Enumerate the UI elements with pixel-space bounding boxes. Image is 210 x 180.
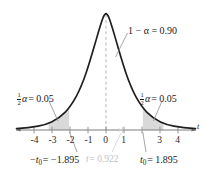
one-half-fraction-left: 12 [17, 92, 21, 107]
tick-label-4: 4 [175, 136, 180, 146]
tick-label-1: 1 [121, 136, 126, 146]
left-tail-area-label: 12α = 0.05 [17, 92, 54, 107]
tick-label-neg3: -3 [49, 136, 57, 146]
lower-critical-value-label: −t0 = −1.895 [30, 155, 79, 168]
t-axis-label: t [197, 122, 199, 131]
right-tail-area-label: 12α = 0.05 [140, 92, 177, 107]
t-distribution-figure: 1 − α = 0.90 12α = 0.05 12α = 0.05 -4 -3… [0, 0, 210, 180]
tick-label-neg2: -2 [67, 136, 75, 146]
test-statistic-leader-line [112, 133, 121, 152]
tick-label-0: 0 [103, 136, 108, 146]
upper-critical-value-label: t0 = 1.895 [140, 155, 178, 168]
distribution-plot [0, 0, 210, 180]
tick-label-3: 3 [157, 136, 162, 146]
confidence-region-label: 1 − α = 0.90 [128, 26, 177, 36]
one-half-fraction-right: 12 [140, 92, 144, 107]
test-statistic-label: t = 0.922 [86, 155, 119, 165]
test-statistic-marker-icon [119, 128, 123, 132]
tick-label-neg1: -1 [85, 136, 93, 146]
tick-label-neg4: -4 [31, 136, 39, 146]
upper-critical-leader-line [143, 132, 146, 152]
